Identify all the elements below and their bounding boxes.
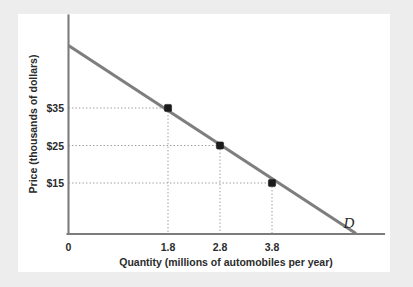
x-tick-label-0: 0 — [66, 241, 72, 253]
x-tick-label-1: 1.8 — [161, 241, 176, 253]
demand-curve-line — [69, 46, 357, 234]
demand-curve-label: D — [343, 215, 355, 231]
guide-lines-group — [69, 108, 273, 234]
data-point-3 — [268, 179, 275, 186]
demand-curve-figure: $35 $25 $15 0 1.8 2.8 3.8 Quantity (mill… — [0, 0, 413, 287]
y-tick-label-0: $35 — [46, 102, 64, 114]
x-tick-label-3: 3.8 — [265, 241, 280, 253]
data-point-1 — [164, 104, 171, 111]
x-axis-title: Quantity (millions of automobiles per ye… — [119, 256, 333, 268]
data-point-2 — [216, 142, 223, 149]
demand-curve-chart: $35 $25 $15 0 1.8 2.8 3.8 Quantity (mill… — [0, 0, 413, 287]
y-axis-title: Price (thousands of dollars) — [27, 55, 39, 194]
x-tick-label-2: 2.8 — [213, 241, 228, 253]
y-tick-label-2: $15 — [46, 177, 64, 189]
y-tick-label-1: $25 — [46, 140, 64, 152]
